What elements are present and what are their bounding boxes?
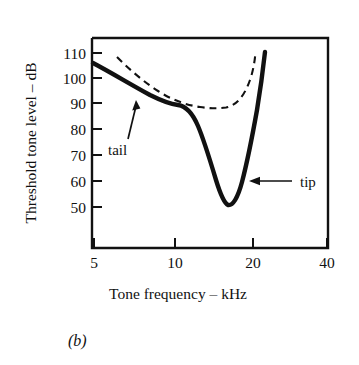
dashed-tuning-curve [117, 52, 256, 108]
y-tick-label-90: 90 [71, 95, 87, 112]
x-tick-label-20: 20 [245, 254, 261, 271]
annotation-tip: tip [249, 174, 316, 190]
tuning-curve-chart: 110 100 90 80 70 60 50 5 10 20 40 [0, 0, 359, 365]
x-tick-label-40: 40 [319, 254, 335, 271]
series-solid-curve [93, 52, 265, 205]
x-axis-title: Tone frequency – kHz [109, 285, 247, 302]
tail-arrow-head-icon [132, 100, 140, 111]
y-tick-label-70: 70 [71, 147, 87, 164]
y-axis-tick-labels: 110 100 90 80 70 60 50 [63, 45, 87, 216]
y-tick-label-80: 80 [71, 121, 87, 138]
solid-tuning-curve [93, 52, 265, 205]
annotation-tail: tail [108, 100, 140, 158]
x-axis-ticks [94, 238, 327, 248]
tip-arrow-head-icon [249, 177, 260, 185]
x-axis-tick-labels: 5 10 20 40 [90, 254, 335, 271]
tail-arrow-line [128, 106, 136, 139]
figure-panel-b: 110 100 90 80 70 60 50 5 10 20 40 [0, 0, 359, 365]
tip-label: tip [300, 174, 316, 190]
x-tick-label-5: 5 [90, 254, 98, 271]
y-tick-label-60: 60 [71, 173, 87, 190]
y-tick-label-50: 50 [71, 199, 87, 216]
panel-caption: (b) [68, 332, 87, 350]
x-tick-label-10: 10 [167, 254, 183, 271]
series-dashed-curve [117, 52, 256, 108]
axes-box [92, 38, 328, 248]
tail-label: tail [108, 142, 127, 158]
plot-frame [92, 38, 328, 248]
y-tick-label-100: 100 [63, 70, 87, 87]
y-tick-label-110: 110 [63, 45, 86, 62]
y-axis-ticks [92, 53, 102, 207]
y-axis-title: Threshold tone level – dB [22, 63, 39, 224]
